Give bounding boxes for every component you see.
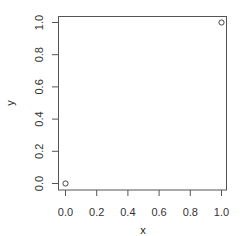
x-tick-label: 0.2	[89, 206, 104, 218]
x-axis-label: x	[140, 224, 146, 236]
y-tick-label: 0.2	[33, 144, 45, 159]
x-axis: 0.00.20.40.60.81.0	[58, 190, 229, 218]
y-tick-label: 0.6	[33, 79, 45, 94]
data-point-marker	[219, 20, 224, 25]
y-tick-label: 0.8	[33, 47, 45, 62]
x-tick-label: 0.0	[58, 206, 73, 218]
data-point-marker	[63, 181, 68, 186]
scatter-plot: 0.00.20.40.60.81.0 0.00.20.40.60.81.0 x …	[0, 0, 245, 236]
x-tick-label: 0.8	[183, 206, 198, 218]
y-tick-label: 1.0	[33, 15, 45, 30]
x-tick-label: 1.0	[214, 206, 229, 218]
y-axis-label: y	[4, 100, 16, 106]
y-axis: 0.00.20.40.60.81.0	[33, 15, 58, 191]
x-tick-label: 0.4	[120, 206, 135, 218]
data-points	[63, 20, 224, 186]
y-tick-label: 0.4	[33, 111, 45, 126]
plot-frame	[59, 17, 227, 191]
y-tick-label: 0.0	[33, 176, 45, 191]
x-tick-label: 0.6	[151, 206, 166, 218]
